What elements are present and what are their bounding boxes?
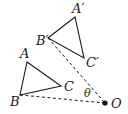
label-a-prime: A′ bbox=[71, 1, 84, 16]
label-b-prime: B′ bbox=[35, 33, 49, 48]
dashed-line-b-prime-to-o bbox=[48, 38, 105, 103]
triangle-abc bbox=[20, 62, 61, 95]
label-o: O bbox=[111, 96, 122, 111]
dashed-line-b-to-o bbox=[20, 95, 105, 103]
label-b: B bbox=[9, 94, 20, 109]
label-c: C bbox=[64, 79, 74, 94]
center-point-o bbox=[102, 100, 107, 105]
triangle-a-prime-b-prime-c-prime bbox=[48, 17, 84, 58]
label-theta: θ bbox=[84, 87, 91, 100]
label-c-prime: C′ bbox=[86, 55, 99, 70]
label-a: A bbox=[19, 46, 29, 61]
rotation-diagram: A B C A′ B′ C′ O θ bbox=[0, 0, 128, 114]
